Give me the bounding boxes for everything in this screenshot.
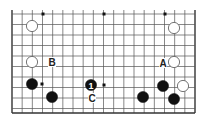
white-stone-icon	[177, 80, 188, 91]
white-stone-icon	[26, 20, 37, 31]
star-point-icon	[41, 83, 44, 86]
white-stone-icon	[168, 56, 179, 67]
white-stone-icon	[168, 22, 179, 33]
star-point-icon	[103, 13, 106, 16]
white-stone-icon	[26, 56, 37, 67]
black-stone-icon	[137, 91, 148, 102]
black-stone-icon	[157, 80, 168, 91]
star-point-icon	[42, 13, 45, 16]
point-label-b: B	[48, 57, 55, 68]
star-point-icon	[103, 84, 106, 87]
black-stone-icon	[46, 91, 57, 102]
black-stone-icon	[26, 78, 37, 89]
point-label-a: A	[159, 58, 166, 69]
go-board: 1ABC	[0, 0, 202, 125]
star-point-icon	[164, 13, 167, 16]
point-label-c: C	[88, 93, 95, 104]
move-number-label: 1	[88, 81, 93, 91]
black-stone-icon	[168, 93, 179, 104]
